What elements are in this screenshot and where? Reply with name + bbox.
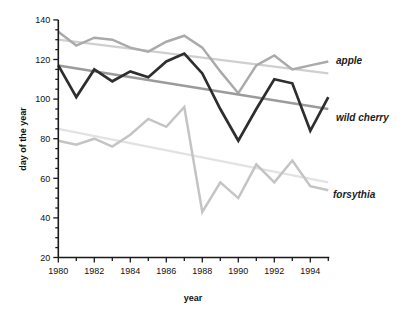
- y-tick-label: 60: [40, 174, 50, 184]
- x-tick-label: 1984: [120, 266, 140, 276]
- series-label-apple: apple: [336, 55, 362, 66]
- y-tick-label: 80: [40, 134, 50, 144]
- y-tick-label: 100: [35, 94, 50, 104]
- y-tick-label: 120: [35, 55, 50, 65]
- x-tick-label: 1982: [84, 266, 104, 276]
- x-tick-label: 1986: [156, 266, 176, 276]
- x-tick-label: 1980: [48, 266, 68, 276]
- phenology-line-chart: 2040608010012014019801982198419861988199…: [0, 0, 407, 321]
- x-axis-title: year: [153, 293, 233, 303]
- y-axis-title: day of the year: [18, 99, 28, 179]
- x-tick-label: 1994: [300, 266, 320, 276]
- y-tick-label: 20: [40, 253, 50, 263]
- x-tick-label: 1988: [192, 266, 212, 276]
- series-label-wild-cherry: wild cherry: [336, 112, 389, 123]
- x-tick-label: 1990: [228, 266, 248, 276]
- y-tick-label: 140: [35, 15, 50, 25]
- plot-area: 2040608010012014019801982198419861988199…: [0, 0, 407, 321]
- x-tick-label: 1992: [264, 266, 284, 276]
- series-label-forsythia: forsythia: [333, 189, 375, 200]
- line-forsythia: [58, 107, 328, 212]
- line-apple-trendline: [58, 40, 328, 74]
- y-tick-label: 40: [40, 213, 50, 223]
